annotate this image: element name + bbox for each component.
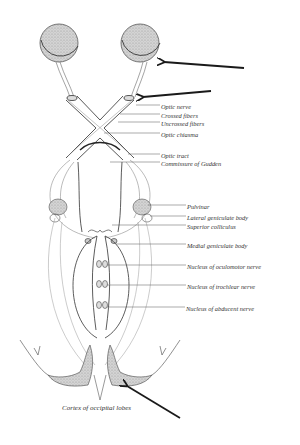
label-uncrossed-fibers: Uncrossed fibers	[161, 120, 204, 127]
label-superior-colliculus: Superior colliculus	[187, 223, 236, 230]
label-lateral-geniculate-body: Lateral geniculate body	[187, 214, 248, 221]
geniculate-bodies	[49, 199, 152, 222]
label-nucleus-of-trochlear-nerve: Nucleus of trochlear nerve	[187, 283, 255, 290]
label-nucleus-of-abducent-nerve: Nucleus of abducent nerve	[186, 305, 254, 312]
label-medial-geniculate-body: Medial geniculate body	[187, 242, 247, 249]
arrow-optic-nerve	[143, 91, 211, 97]
brainstem	[73, 236, 129, 338]
label-optic-tract: Optic tract	[161, 152, 189, 159]
left-eyeball	[40, 24, 78, 62]
label-crossed-fibers: Crossed fibers	[161, 112, 198, 119]
arrow-eyeball	[164, 62, 244, 68]
label-cortex-of-occipital-lobes: Cortex of occipital lobes	[62, 405, 131, 412]
diagram-drawing	[0, 0, 300, 445]
occipital-cortex	[20, 340, 180, 400]
cranial-nerve-nuclei	[97, 261, 108, 309]
right-eyeball	[121, 24, 160, 62]
label-pulvinar: Pulvinar	[187, 203, 209, 210]
label-nucleus-of-oculomotor-nerve: Nucleus of oculomotor nerve	[187, 263, 261, 270]
visual-pathway-diagram: Optic nerveCrossed fibersUncrossed fiber…	[0, 0, 300, 445]
optic-nerves	[56, 62, 147, 97]
label-optic-chiasma: Optic chiasma	[161, 131, 198, 138]
optic-tracts	[50, 160, 150, 238]
arrow-occipital-cortex	[127, 386, 180, 418]
optic-radiations	[48, 218, 151, 370]
label-commissure-of-gudden: Commissure of Gudden	[161, 160, 221, 167]
label-optic-nerve: Optic nerve	[161, 103, 191, 110]
optic-chiasma-shape	[66, 96, 134, 161]
